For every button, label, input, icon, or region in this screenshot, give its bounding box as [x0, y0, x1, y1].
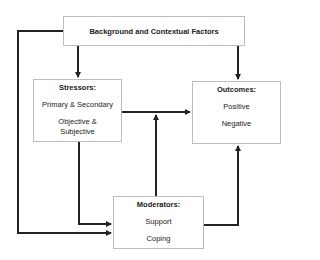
stressors-item-primary-secondary: Primary & Secondary — [34, 100, 121, 109]
moderators-title: Moderators: — [114, 200, 203, 209]
moderators-item-support: Support — [114, 217, 203, 226]
stressors-title: Stressors: — [34, 83, 121, 92]
stressors-box: Stressors: Primary & Secondary Objective… — [33, 79, 122, 142]
background-factors-box: Background and Contextual Factors — [63, 16, 245, 46]
moderators-box: Moderators: Support Coping — [113, 196, 204, 249]
background-factors-label: Background and Contextual Factors — [89, 27, 218, 36]
moderators-item-coping: Coping — [114, 234, 203, 243]
outcomes-box: Outcomes: Positive Negative — [192, 81, 281, 144]
outcomes-item-negative: Negative — [193, 119, 280, 128]
stressors-item-objective: Objective & — [34, 117, 121, 126]
outcomes-title: Outcomes: — [193, 85, 280, 94]
stressors-item-subjective: Subjective — [34, 127, 121, 136]
outcomes-item-positive: Positive — [193, 102, 280, 111]
